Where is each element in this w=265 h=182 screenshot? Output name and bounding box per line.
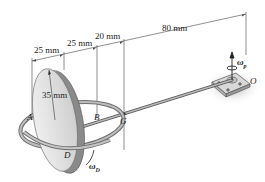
point-a: A	[27, 113, 33, 122]
dim-20mm: 20 mm	[95, 32, 120, 41]
radius-label: 35 mm	[42, 91, 67, 100]
point-b: B	[94, 113, 100, 122]
dim-25mm-2: 25 mm	[67, 39, 92, 48]
point-o: O	[250, 77, 257, 86]
point-d: D	[64, 151, 71, 160]
omega-p-label: ωp	[237, 58, 247, 69]
disk	[25, 65, 91, 177]
point-g: G	[120, 117, 127, 126]
gyroscope-figure	[0, 0, 265, 182]
dim-25mm-1: 25 mm	[34, 46, 59, 55]
omega-d-label: ωD	[89, 162, 100, 173]
dim-80mm: 80 mm	[162, 24, 187, 33]
